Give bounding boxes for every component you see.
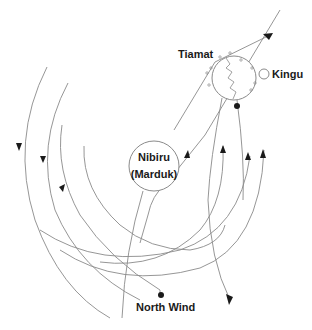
marduk-name: (Marduk) [129,166,179,183]
tiamat-label: Tiamat [178,48,213,60]
arrow-up-right-2 [245,152,251,160]
arrow-down-inner-left [59,184,65,192]
descending-path-right [237,100,243,200]
kingu-circle [259,69,269,79]
diagram-canvas: Tiamat Kingu Nibiru (Marduk) North Wind [0,0,312,330]
tiamat-circle [212,56,256,100]
arrow-down-descending [226,294,233,305]
arrow-diagonal-mid [184,150,190,158]
tiamat-point [234,103,240,109]
nibiru-name: Nibiru [129,149,179,166]
nibiru-label: Nibiru (Marduk) [129,149,179,183]
north-wind-point [158,292,164,298]
arrow-up-right-1 [220,145,226,153]
kingu-label: Kingu [272,68,303,80]
arrow-down-outer-left [16,143,22,151]
north-wind-label: North Wind [136,301,195,313]
arrow-up-right-3 [260,149,266,158]
descending-path-left [208,98,230,300]
arrow-down-mid-left [40,156,46,163]
nibiru-trail [122,191,143,318]
orbit-outer-left [25,67,110,318]
diagonal-path [140,10,280,243]
